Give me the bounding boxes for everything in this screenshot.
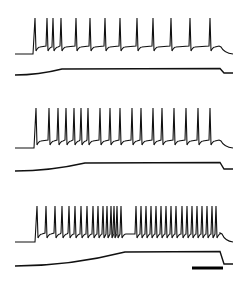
current-ramp-trace [15, 69, 233, 76]
voltage-trace [15, 206, 233, 242]
current-ramp-trace [15, 163, 233, 172]
voltage-trace [15, 18, 233, 54]
panel-B [15, 108, 233, 171]
current-ramp-trace [15, 252, 233, 267]
figure-traces [0, 0, 245, 285]
panel-C [15, 206, 233, 266]
voltage-trace [15, 108, 233, 148]
panel-A [15, 18, 233, 75]
